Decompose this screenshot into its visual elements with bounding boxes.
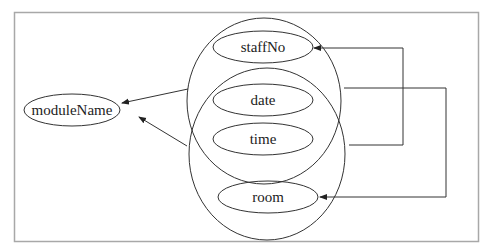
node-moduleName: moduleName (24, 94, 120, 126)
node-moduleName-label: moduleName (32, 102, 113, 118)
node-staffNo-label: staffNo (241, 39, 286, 55)
edge-lower-group-to-moduleName (139, 117, 187, 146)
node-date-label: date (251, 92, 276, 108)
node-time: time (213, 123, 313, 155)
node-time-label: time (250, 131, 277, 147)
diagram-canvas: moduleName staffNo date time room (0, 0, 490, 251)
node-date: date (213, 84, 313, 116)
edge-to-staffNo (314, 48, 403, 145)
edge-upper-group-to-moduleName (122, 89, 188, 103)
node-staffNo: staffNo (213, 31, 313, 63)
node-room-label: room (252, 189, 284, 205)
node-room: room (218, 181, 318, 213)
edge-to-room (320, 88, 446, 197)
